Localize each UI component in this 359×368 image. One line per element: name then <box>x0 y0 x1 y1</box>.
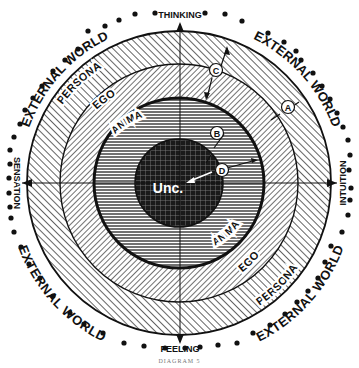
sensation-label: SENSATION <box>12 157 22 209</box>
svg-text:C: C <box>213 66 220 76</box>
arrow-right-icon <box>327 179 337 187</box>
marker-b: B <box>211 127 224 140</box>
svg-text:A: A <box>285 103 292 113</box>
unconscious-label: Unc. <box>153 180 183 196</box>
svg-text:D: D <box>219 166 226 176</box>
marker-c: C <box>210 64 223 77</box>
arrow-up-icon <box>176 22 184 32</box>
svg-text:B: B <box>214 129 221 139</box>
arrow-down-icon <box>176 334 184 344</box>
diagram-caption: DIAGRAM 5 <box>0 358 359 364</box>
intuition-label: INTUITION <box>338 161 348 206</box>
psyche-diagram: EXTERNAL WORLD EXTERNAL WORLD EXTERNAL W… <box>0 0 359 368</box>
marker-d: D <box>216 164 229 177</box>
marker-a: A <box>282 101 295 114</box>
thinking-label: THINKING <box>158 10 202 20</box>
